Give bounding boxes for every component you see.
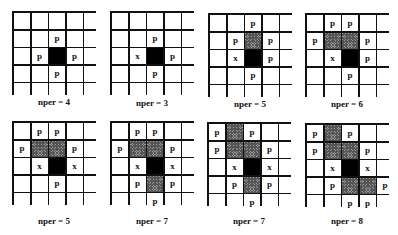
empty-cell	[165, 66, 181, 82]
hatched-cell	[245, 33, 261, 49]
center-cell	[244, 159, 260, 175]
grid-panel-7: ppppxxppp	[207, 122, 291, 206]
empty-cell	[112, 13, 128, 29]
empty-cell	[307, 68, 323, 84]
hatched-cell	[147, 141, 163, 157]
empty-cell	[228, 68, 244, 84]
empty-cell	[307, 15, 323, 31]
p-cell: p	[112, 141, 128, 157]
nper-label: nper = 4	[38, 97, 70, 107]
p-cell: p	[209, 142, 225, 158]
p-cell: p	[360, 195, 376, 211]
p-cell: p	[360, 33, 376, 49]
empty-cell	[32, 176, 48, 192]
empty-cell	[377, 195, 393, 211]
empty-cell	[307, 195, 323, 211]
p-cell: p	[32, 123, 48, 139]
empty-cell	[182, 176, 198, 192]
hatched-cell	[244, 177, 260, 193]
empty-cell	[84, 31, 100, 47]
empty-cell	[130, 193, 146, 209]
x-cell: x	[325, 160, 341, 176]
empty-cell	[112, 193, 128, 209]
x-cell: x	[227, 159, 243, 175]
empty-cell	[228, 15, 244, 31]
empty-cell	[360, 125, 376, 141]
p-cell: p	[209, 124, 225, 140]
p-cell: p	[147, 193, 163, 209]
p-cell: p	[165, 176, 181, 192]
hatched-cell	[227, 142, 243, 158]
empty-cell	[209, 177, 225, 193]
empty-cell	[84, 66, 100, 82]
empty-cell	[112, 66, 128, 82]
p-cell: p	[244, 124, 260, 140]
p-cell: p	[147, 123, 163, 139]
empty-cell	[263, 15, 279, 31]
empty-cell	[279, 124, 295, 140]
p-cell: p	[130, 176, 146, 192]
center-cell	[49, 158, 65, 174]
p-cell: p	[130, 123, 146, 139]
empty-cell	[307, 178, 323, 194]
hatched-cell	[325, 143, 341, 159]
x-cell: x	[165, 158, 181, 174]
grid-panel-1: pppp	[12, 11, 96, 95]
empty-cell	[14, 193, 30, 209]
empty-cell	[377, 125, 393, 141]
x-cell: x	[32, 158, 48, 174]
empty-cell	[112, 176, 128, 192]
center-cell	[342, 160, 358, 176]
empty-cell	[182, 48, 198, 64]
empty-cell	[67, 176, 83, 192]
empty-cell	[325, 68, 341, 84]
stencil-grid: ppppxxpppp	[305, 123, 389, 207]
hatched-cell	[360, 178, 376, 194]
p-cell: p	[342, 15, 358, 31]
empty-cell	[307, 50, 323, 66]
p-cell: p	[245, 15, 261, 31]
x-cell: x	[130, 158, 146, 174]
nper-label: nper = 5	[234, 99, 266, 109]
hatched-cell	[342, 143, 358, 159]
stencil-grid: ppppxxppp	[110, 121, 194, 205]
nper-label: nper = 8	[331, 216, 363, 226]
empty-cell	[84, 123, 100, 139]
empty-cell	[182, 66, 198, 82]
hatched-cell	[342, 33, 358, 49]
stencil-grid: pppp	[12, 11, 96, 95]
empty-cell	[130, 83, 146, 99]
empty-cell	[209, 194, 225, 210]
empty-cell	[210, 68, 226, 84]
nper-label: nper = 5	[38, 216, 70, 226]
empty-cell	[67, 66, 83, 82]
p-cell: p	[49, 31, 65, 47]
empty-cell	[182, 123, 198, 139]
stencil-grid: ppppxpp	[305, 13, 389, 97]
p-cell: p	[262, 177, 278, 193]
empty-cell	[32, 31, 48, 47]
p-cell: p	[165, 48, 181, 64]
empty-cell	[14, 48, 30, 64]
grid-panel-6: ppppxxppp	[110, 121, 194, 205]
p-cell: p	[49, 123, 65, 139]
p-cell: p	[14, 141, 30, 157]
empty-cell	[67, 13, 83, 29]
empty-cell	[182, 141, 198, 157]
hatched-cell	[227, 124, 243, 140]
empty-cell	[147, 13, 163, 29]
p-cell: p	[165, 141, 181, 157]
empty-cell	[182, 83, 198, 99]
x-cell: x	[130, 48, 146, 64]
empty-cell	[280, 15, 296, 31]
empty-cell	[279, 159, 295, 175]
empty-cell	[14, 158, 30, 174]
empty-cell	[67, 123, 83, 139]
empty-cell	[325, 195, 341, 211]
center-cell	[147, 158, 163, 174]
x-cell: x	[262, 159, 278, 175]
empty-cell	[165, 83, 181, 99]
empty-cell	[279, 177, 295, 193]
p-cell: p	[244, 194, 260, 210]
empty-cell	[67, 193, 83, 209]
